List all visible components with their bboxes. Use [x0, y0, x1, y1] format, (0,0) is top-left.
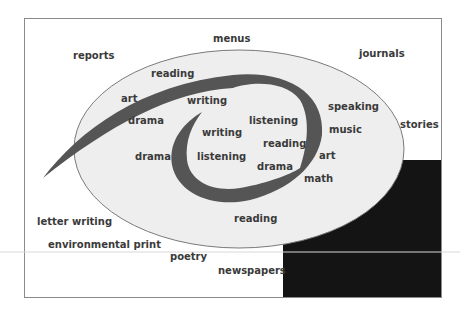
- label-reading-top: reading: [151, 68, 194, 79]
- label-menus: menus: [213, 33, 250, 44]
- label-journals: journals: [358, 48, 405, 59]
- label-art-right: art: [319, 150, 336, 161]
- literacy-spiral-diagram: menus reports journals stories letter wr…: [0, 0, 460, 315]
- label-reports: reports: [73, 50, 114, 61]
- label-newspapers: newspapers: [218, 265, 286, 276]
- label-art-left: art: [121, 93, 138, 104]
- label-listening-inner: listening: [197, 151, 246, 162]
- label-math: math: [304, 173, 333, 184]
- label-listening-upper: listening: [249, 115, 298, 126]
- label-poetry: poetry: [170, 251, 208, 262]
- label-writing-top: writing: [187, 95, 227, 106]
- label-letter-writing: letter writing: [37, 216, 112, 227]
- label-drama-left: drama: [135, 151, 171, 162]
- label-reading-inner: reading: [263, 138, 306, 149]
- label-music: music: [329, 124, 362, 135]
- label-environmental-print: environmental print: [48, 239, 161, 250]
- label-reading-bottom: reading: [234, 213, 277, 224]
- label-writing-inner: writing: [202, 127, 242, 138]
- label-drama-inner: drama: [257, 161, 293, 172]
- label-speaking: speaking: [328, 101, 379, 112]
- label-stories: stories: [400, 119, 439, 130]
- label-drama-upper-left: drama: [128, 115, 164, 126]
